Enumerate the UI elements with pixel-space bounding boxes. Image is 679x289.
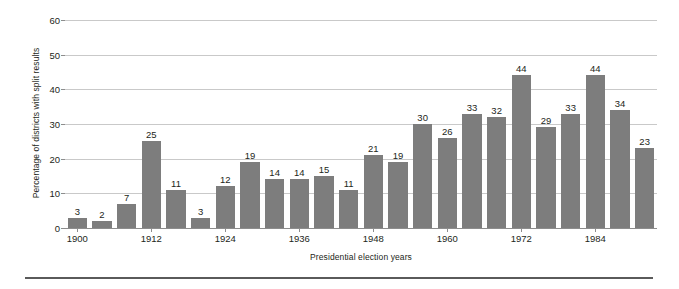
bar (240, 162, 259, 228)
bar-slot: 19 (386, 20, 411, 228)
bar-value-label: 19 (238, 150, 263, 161)
bar (610, 110, 629, 228)
bar-slot: 33 (460, 20, 485, 228)
bar-slot: 34 (608, 20, 633, 228)
bar-value-label: 11 (164, 178, 189, 189)
bar-value-label: 32 (484, 105, 509, 116)
x-tick-label: 1960 (425, 233, 470, 244)
bar (561, 114, 580, 228)
bar-value-label: 33 (460, 102, 485, 113)
bar (364, 155, 383, 228)
bar-slot: 32 (484, 20, 509, 228)
bar (635, 148, 654, 228)
bar-slot: 19 (238, 20, 263, 228)
footer-divider (25, 277, 653, 279)
bar (462, 114, 481, 228)
x-axis-title: Presidential election years (65, 252, 657, 262)
bar-value-label: 15 (312, 164, 337, 175)
bar-value-label: 7 (114, 192, 139, 203)
bar-slot: 11 (164, 20, 189, 228)
x-tick-mark (299, 228, 300, 232)
bar-slot: 11 (336, 20, 361, 228)
bar (536, 127, 555, 228)
bar (339, 190, 358, 228)
x-tick-label: 1936 (277, 233, 322, 244)
bar-slot: 15 (312, 20, 337, 228)
x-tick-mark (225, 228, 226, 232)
axis-baseline: 0 (65, 228, 657, 229)
bar (68, 218, 87, 228)
bar-slot: 31900 (65, 20, 90, 228)
bar-value-label: 30 (410, 112, 435, 123)
x-tick-label: 1900 (55, 233, 100, 244)
bar (314, 176, 333, 228)
bar-value-label: 33 (558, 102, 583, 113)
bar-slot: 441984 (583, 20, 608, 228)
bar-slot: 33 (558, 20, 583, 228)
bar (142, 141, 161, 228)
bar-slot: 441972 (509, 20, 534, 228)
y-axis-title: Percentage of districts with split resul… (31, 17, 41, 229)
y-tick-label: 20 (49, 153, 60, 164)
bar (166, 190, 185, 228)
bar-value-label: 29 (534, 115, 559, 126)
y-tick-label: 60 (49, 15, 60, 26)
bar-slot: 7 (114, 20, 139, 228)
bar-value-label: 21 (361, 143, 386, 154)
bar-value-label: 25 (139, 129, 164, 140)
x-tick-mark (521, 228, 522, 232)
x-tick-label: 1972 (499, 233, 544, 244)
bar-value-label: 11 (336, 178, 361, 189)
bar-slot: 14 (262, 20, 287, 228)
bar-value-label: 23 (632, 136, 657, 147)
bar-slot: 121924 (213, 20, 238, 228)
bar (216, 186, 235, 228)
bar (413, 124, 432, 228)
bar (265, 179, 284, 228)
y-tick-label: 0 (55, 223, 60, 234)
bar (191, 218, 210, 228)
bar-value-label: 2 (90, 209, 115, 220)
x-tick-label: 1984 (573, 233, 618, 244)
y-tick-mark (61, 228, 65, 229)
x-tick-label: 1924 (203, 233, 248, 244)
bar-value-label: 3 (188, 206, 213, 217)
x-tick-mark (151, 228, 152, 232)
bar-value-label: 3 (65, 206, 90, 217)
bar-series: 3190027251912113121924191414193615112119… (65, 20, 657, 228)
bar-slot: 29 (534, 20, 559, 228)
bar-value-label: 26 (435, 126, 460, 137)
y-tick-label: 50 (49, 49, 60, 60)
bar-slot: 3 (188, 20, 213, 228)
plot-area: 0102030405060 31900272519121131219241914… (65, 20, 657, 228)
bar (512, 75, 531, 228)
y-tick-label: 10 (49, 188, 60, 199)
x-tick-mark (447, 228, 448, 232)
bar-slot: 23 (632, 20, 657, 228)
bar-slot: 2 (90, 20, 115, 228)
x-tick-mark (77, 228, 78, 232)
y-tick-label: 30 (49, 119, 60, 130)
y-tick-label: 40 (49, 84, 60, 95)
bar-slot: 30 (410, 20, 435, 228)
bar-slot: 141936 (287, 20, 312, 228)
bar-value-label: 44 (583, 63, 608, 74)
x-tick-mark (595, 228, 596, 232)
bar (487, 117, 506, 228)
bar-value-label: 34 (608, 98, 633, 109)
bar-slot: 261960 (435, 20, 460, 228)
x-tick-mark (373, 228, 374, 232)
bar-slot: 211948 (361, 20, 386, 228)
bar (388, 162, 407, 228)
bar (438, 138, 457, 228)
bar-slot: 251912 (139, 20, 164, 228)
x-tick-label: 1948 (351, 233, 396, 244)
bar-value-label: 14 (262, 167, 287, 178)
bar (586, 75, 605, 228)
bar-value-label: 44 (509, 63, 534, 74)
x-tick-label: 1912 (129, 233, 174, 244)
bar-chart-figure: Percentage of districts with split resul… (0, 0, 679, 289)
bar-value-label: 14 (287, 167, 312, 178)
bar (290, 179, 309, 228)
bar (117, 204, 136, 228)
